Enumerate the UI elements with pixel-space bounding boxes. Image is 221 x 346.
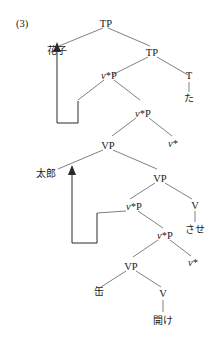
branch-tp-inner-left: [112, 57, 148, 75]
node-tp-inner: TP: [146, 47, 158, 58]
node-vstarp-1-rest: *P: [106, 70, 117, 81]
node-vp-1: VP: [101, 140, 115, 151]
example-number: (3): [16, 18, 29, 30]
node-vstarp-2-rest: *P: [140, 108, 151, 119]
syntactic-tree-diagram: (3) TP 花子 TP v*P T た v*P VP v* 太郎 VP v*P…: [0, 0, 221, 346]
branch-vp2-left: [130, 183, 155, 199]
terminal-sase: させ: [185, 224, 205, 235]
node-vp-2: VP: [153, 173, 167, 184]
node-vstar-1-rest: *: [173, 138, 178, 149]
branch-vstarp2-right: [149, 118, 172, 136]
node-vstarp-3: v*P: [126, 201, 142, 212]
node-vstarp-4: v*P: [157, 230, 173, 241]
branch-vstarp3-left: [97, 211, 126, 213]
terminal-kan: 缶: [94, 285, 104, 297]
node-vstar-2-rest: *: [193, 257, 198, 268]
branch-vstarp4-left: [133, 240, 158, 257]
node-vstarp-1: v*P: [101, 70, 117, 81]
terminal-ta: た: [184, 93, 194, 104]
branch-vp2-right: [165, 183, 192, 199]
branch-vp3-right: [136, 271, 161, 287]
movement-arrow-taro: [68, 165, 97, 243]
node-v-head-1: V: [191, 200, 199, 211]
movement-path-hanako: [57, 50, 78, 123]
branch-vp1-left: [58, 150, 103, 169]
node-tp-root: TP: [100, 18, 112, 29]
branch-vstarp1-right: [114, 80, 140, 100]
branch-vstarp4-right: [170, 240, 191, 256]
node-vstar-2: v*: [188, 257, 198, 268]
branch-vp1-right: [113, 150, 157, 169]
node-vstarp-2: v*P: [135, 108, 151, 119]
branch-vstarp1-left: [78, 80, 104, 100]
terminal-ake: 開け: [153, 315, 173, 326]
node-vp-3: VP: [124, 261, 138, 272]
branch-vp3-left: [101, 271, 126, 287]
terminal-taro: 太郎: [36, 167, 56, 179]
node-t-head: T: [186, 70, 193, 81]
node-vstarp-3-rest: *P: [131, 201, 142, 212]
branch-tp-root-right: [108, 28, 150, 46]
branch-tp-inner-right: [157, 57, 188, 75]
node-vstar-1: v*: [168, 138, 178, 149]
branch-vstarp2-left: [112, 118, 136, 136]
node-v-head-2: V: [159, 288, 167, 299]
terminal-hanako: 花子: [47, 44, 67, 56]
node-vstarp-4-rest: *P: [162, 230, 173, 241]
branch-vstarp3-right: [138, 211, 163, 228]
branch-tp-root-left: [59, 28, 103, 46]
movement-path-taro: [72, 173, 97, 243]
arrow-head-taro: [68, 165, 76, 175]
